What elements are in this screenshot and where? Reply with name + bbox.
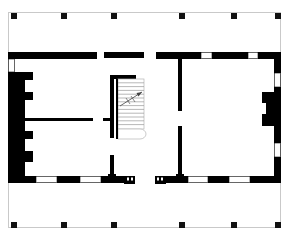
column-marker — [61, 13, 67, 19]
column-marker — [11, 13, 17, 19]
north-window-right-2 — [248, 53, 258, 59]
west-wall-main — [8, 72, 15, 183]
column-marker — [231, 13, 237, 19]
south-wall-segment-3 — [101, 176, 128, 183]
column-marker — [231, 222, 237, 228]
stair-hall-west-partition — [110, 75, 114, 138]
south-window-4 — [229, 177, 250, 183]
east-window-lower — [275, 143, 281, 157]
east-chimney-backing — [266, 92, 274, 126]
column-marker — [61, 222, 67, 228]
floor-plan-canvas — [0, 0, 289, 241]
west-window-upper — [9, 59, 15, 72]
entrance-pilaster-west — [124, 176, 135, 184]
north-window-right-1 — [201, 53, 212, 59]
staircase-group — [116, 79, 146, 139]
west-wall-inner-band — [15, 100, 25, 131]
north-wall-right-segment-b — [212, 52, 248, 59]
east-wall-middle — [274, 87, 281, 143]
east-wall-upper — [274, 52, 281, 73]
column-marker — [179, 222, 185, 228]
entrance-pilaster-east — [155, 176, 166, 184]
right-wing-partition-lower — [178, 126, 182, 180]
south-wall-segment-5 — [208, 176, 229, 183]
floor-plan-drawing — [0, 0, 289, 241]
south-window-3 — [188, 177, 208, 183]
stair-hall-doorjamb-stub — [103, 118, 114, 121]
stair-bullnose-step — [118, 129, 146, 139]
west-exterior-wall-group — [8, 59, 15, 183]
entrance-pilaster-east-notch-2 — [161, 178, 163, 181]
left-room-door-jamb — [22, 116, 25, 123]
north-wall-left-segment — [8, 52, 97, 59]
column-marker — [11, 222, 17, 228]
east-exterior-wall-group — [274, 52, 281, 183]
right-wing-south-junction — [176, 174, 184, 177]
column-marker — [179, 13, 185, 19]
entrance-pilaster-east-notch — [157, 178, 159, 181]
west-wall-inner-band-lower — [15, 162, 25, 177]
south-window-1 — [36, 177, 57, 183]
column-marker — [275, 13, 281, 19]
stair-hall-south-junction — [108, 174, 116, 177]
south-wall-segment-2 — [57, 176, 80, 183]
entrance-pilaster-west-notch-2 — [131, 178, 133, 181]
south-wall-segment-6 — [250, 176, 281, 183]
column-marker — [275, 222, 281, 228]
entrance-pilaster-west-notch — [127, 178, 129, 181]
south-window-2 — [80, 177, 101, 183]
column-marker — [111, 13, 117, 19]
south-wall-segment-1 — [8, 176, 36, 183]
north-wall-center-stub — [104, 52, 144, 58]
column-marker — [111, 222, 117, 228]
east-window-upper — [275, 73, 281, 87]
right-wing-partition-upper — [178, 56, 182, 111]
stair-stringer-west — [116, 79, 118, 139]
left-room-cross-partition — [15, 118, 93, 121]
